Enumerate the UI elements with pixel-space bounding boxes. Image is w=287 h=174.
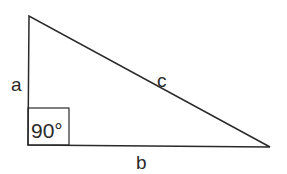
triangle-shape	[28, 16, 270, 147]
side-a-label: a	[11, 74, 22, 95]
side-c-label: c	[157, 70, 167, 91]
right-angle-label: 90°	[31, 119, 63, 142]
side-b-label: b	[136, 152, 147, 173]
right-triangle-diagram: 90° a c b	[0, 0, 287, 174]
